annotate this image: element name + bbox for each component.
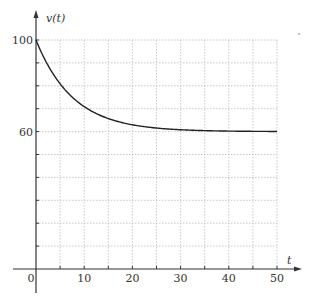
stray-dot bbox=[298, 33, 300, 35]
axes bbox=[13, 10, 302, 293]
x-axis-label: t bbox=[287, 254, 292, 267]
y-tick-label: 60 bbox=[19, 126, 33, 139]
x-tick-label: 50 bbox=[270, 272, 284, 285]
x-tick-label: 10 bbox=[77, 272, 91, 285]
y-tick-label: 100 bbox=[12, 34, 33, 47]
y-axis-label: v(t) bbox=[46, 12, 65, 25]
grid bbox=[36, 40, 277, 269]
y-axis-arrow-icon bbox=[34, 10, 39, 18]
x-tick-label: 0 bbox=[28, 272, 35, 285]
x-axis-arrow-icon bbox=[294, 267, 302, 272]
x-tick-label: 20 bbox=[125, 272, 139, 285]
tick-labels: 0102030405060100 bbox=[12, 34, 284, 285]
chart: 0102030405060100 v(t) t bbox=[0, 0, 320, 306]
x-tick-label: 30 bbox=[174, 272, 188, 285]
x-tick-label: 40 bbox=[222, 272, 236, 285]
